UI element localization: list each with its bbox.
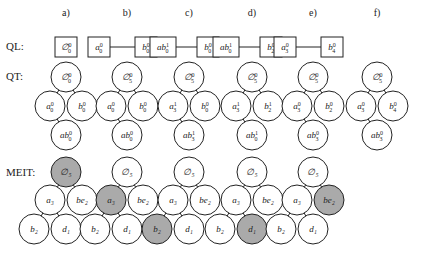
column-a: a)∅00∅00a00b00ab00∅₅a₃be₂b₂d₁ xyxy=(19,7,97,244)
meit-right-label: be₂ xyxy=(199,195,211,205)
meit-leaf-right-label: d₁ xyxy=(248,224,256,234)
meit-left-label: a₃ xyxy=(293,195,301,205)
meit-leaf-left-label: b₂ xyxy=(153,224,161,234)
meit-leaf-right-label: d₁ xyxy=(309,224,317,234)
meit-root-label: ∅₅ xyxy=(246,167,257,177)
meit-leaf-left-label: b₂ xyxy=(91,224,99,234)
meit-leaf-right-label: d₁ xyxy=(123,224,131,234)
column-header: b) xyxy=(123,7,131,19)
meit-leaf-left-label: b₂ xyxy=(277,224,285,234)
column-header: a) xyxy=(62,7,70,19)
meit-right-label: be₂ xyxy=(137,195,149,205)
column-header: f) xyxy=(374,7,381,19)
meit-leaf-left-label: b₂ xyxy=(30,224,38,234)
row-label-qt: QT: xyxy=(6,70,23,82)
meit-left-label: a₃ xyxy=(232,195,240,205)
meit-root-label: ∅₅ xyxy=(121,167,132,177)
column-f: f)∅05a03b04ab03 xyxy=(346,7,408,150)
meit-right-label: be₂ xyxy=(262,195,274,205)
meit-right-label: be₂ xyxy=(323,195,335,205)
meit-right-label: be₂ xyxy=(76,195,88,205)
meit-left-label: a₃ xyxy=(107,195,115,205)
row-label-ql: QL: xyxy=(6,40,24,52)
meit-leaf-left-label: b₂ xyxy=(216,224,224,234)
meit-left-label: a₃ xyxy=(169,195,177,205)
meit-diagram: QL: QT: MEIT: a)∅00∅00a00b00ab00∅₅a₃be₂b… xyxy=(0,0,438,258)
meit-leaf-right-label: d₁ xyxy=(185,224,193,234)
column-header: e) xyxy=(309,7,317,19)
meit-left-label: a₃ xyxy=(46,195,54,205)
row-label-meit: MEIT: xyxy=(6,166,35,178)
meit-leaf-right-label: d₁ xyxy=(62,224,70,234)
column-header: c) xyxy=(185,7,193,19)
column-header: d) xyxy=(248,7,256,19)
meit-root-label: ∅₅ xyxy=(183,167,194,177)
meit-root-label: ∅₅ xyxy=(307,167,318,177)
meit-root-label: ∅₅ xyxy=(60,167,71,177)
